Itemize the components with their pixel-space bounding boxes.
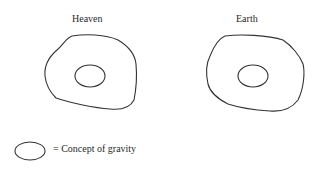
heaven-label: Heaven	[72, 13, 103, 24]
legend-ellipse-icon	[15, 142, 45, 160]
heaven-gravity-ellipse	[75, 65, 105, 87]
earth-gravity-ellipse	[238, 65, 268, 87]
legend-text: = Concept of gravity	[53, 143, 136, 154]
earth-region	[207, 35, 304, 111]
diagram-canvas	[0, 0, 319, 176]
heaven-region	[45, 35, 137, 109]
earth-label: Earth	[236, 13, 258, 24]
